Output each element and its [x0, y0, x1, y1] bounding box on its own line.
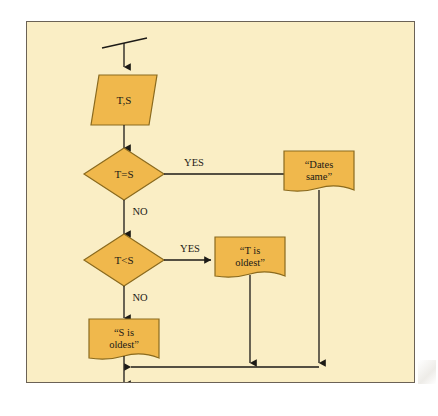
edge-label-less-no: NO: [132, 292, 148, 303]
decision-node-less: T<S: [84, 234, 164, 286]
document-s-oldest-line2: oldest”: [109, 339, 139, 350]
edge-less-no: NO: [124, 286, 148, 318]
input-node-label: T,S: [117, 94, 132, 106]
document-t-oldest-line2: oldest”: [235, 257, 265, 268]
document-t-oldest-line1: “T is: [240, 245, 261, 256]
decision-less-label: T<S: [114, 254, 133, 266]
document-dates-same-line2: same”: [306, 171, 333, 182]
edge-label-equal-yes: YES: [184, 157, 204, 168]
edge-label-equal-no: NO: [132, 206, 148, 217]
input-node-ts: T,S: [91, 75, 157, 125]
document-dates-same-line1: “Dates: [305, 159, 334, 170]
start-terminator: [102, 38, 147, 67]
document-node-t-oldest: “T is oldest”: [215, 237, 285, 277]
figure-page: T,S T=S YES NO “Dates: [0, 0, 438, 416]
document-node-s-oldest: “S is oldest”: [89, 319, 159, 359]
edge-label-less-yes: YES: [180, 243, 200, 254]
document-node-dates-same: “Dates same”: [284, 151, 354, 191]
decision-equal-label: T=S: [114, 168, 133, 180]
flowchart-canvas: T,S T=S YES NO “Dates: [27, 22, 414, 382]
page-shadow-artifact: [418, 360, 436, 384]
flowchart-frame: T,S T=S YES NO “Dates: [26, 21, 415, 383]
edge-less-yes: YES: [164, 243, 211, 260]
decision-node-equal: T=S: [84, 148, 164, 200]
edge-equal-no: NO: [124, 200, 148, 234]
document-s-oldest-line1: “S is: [114, 327, 134, 338]
